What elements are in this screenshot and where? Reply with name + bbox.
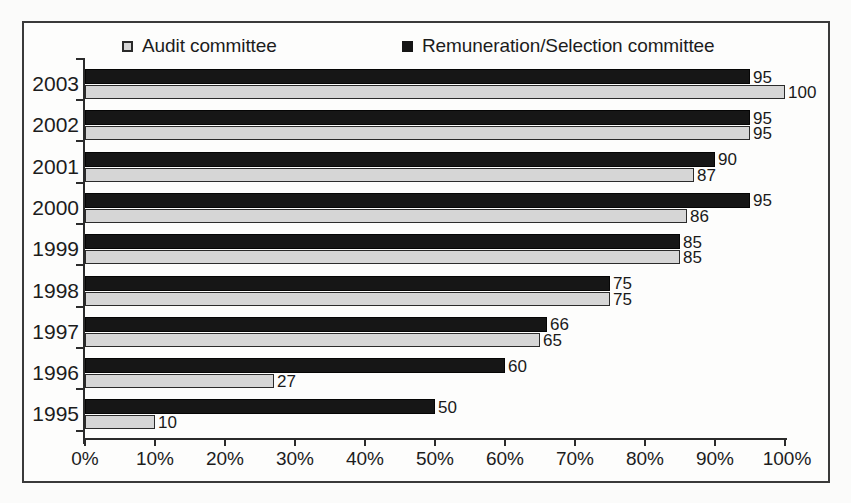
bar-audit-1999[interactable]: 85 [85,250,680,264]
bar-remuneration-2000[interactable]: 95 [85,193,750,208]
legend-label-audit-committee: Audit committee [142,35,277,57]
x-axis-label-70: 70% [556,448,594,470]
y-axis-tick [76,140,84,142]
open-square-icon [122,41,133,52]
x-axis-tick [154,438,156,446]
x-axis-label-80: 80% [626,448,664,470]
bar-audit-1997[interactable]: 65 [85,333,540,347]
bar-value-remuneration-2003: 95 [753,68,772,85]
bar-value-remuneration-2001: 90 [718,151,737,168]
bar-value-audit-1998: 75 [613,290,632,307]
x-axis-label-50: 50% [416,448,454,470]
bar-audit-2001[interactable]: 87 [85,168,694,182]
y-axis-label-1995: 1995 [0,402,79,426]
x-axis-tick [84,438,86,446]
bar-remuneration-2002[interactable]: 95 [85,110,750,125]
bar-value-audit-2000: 86 [690,207,709,224]
y-axis-label-2000: 2000 [0,196,79,220]
x-axis-tick [504,438,506,446]
category-row-1995: 1995 50 10 [85,396,785,437]
bar-remuneration-2001[interactable]: 90 [85,152,715,167]
y-axis-tick [76,223,84,225]
category-row-2000: 2000 95 86 [85,190,785,231]
legend-item-audit-committee[interactable]: Audit committee [122,31,277,61]
category-row-2002: 2002 95 95 [85,107,785,148]
bar-audit-1998[interactable]: 75 [85,292,610,306]
x-axis-label-40: 40% [346,448,384,470]
x-axis-tick [434,438,436,446]
category-row-1998: 1998 75 75 [85,273,785,314]
bar-value-remuneration-2000: 95 [753,192,772,209]
x-axis-label-60: 60% [486,448,524,470]
x-axis-tick [364,438,366,446]
category-row-1999: 1999 85 85 [85,231,785,272]
bar-value-audit-1995: 10 [158,414,177,431]
x-axis-label-100: 100% [763,448,812,470]
y-axis-tick [76,99,84,101]
bar-audit-2002[interactable]: 95 [85,126,750,140]
x-axis-tick [714,438,716,446]
x-axis-tick [574,438,576,446]
bar-value-audit-2002: 95 [753,125,772,142]
bar-remuneration-1999[interactable]: 85 [85,234,680,249]
bar-audit-1996[interactable]: 27 [85,374,274,388]
category-row-2001: 2001 90 87 [85,149,785,190]
y-axis-tick [76,182,84,184]
y-axis-label-1998: 1998 [0,279,79,303]
chart-legend: Audit committee Remuneration/Selection c… [24,31,828,61]
bar-remuneration-1997[interactable]: 66 [85,317,547,332]
x-axis-label-10: 10% [136,448,174,470]
x-axis-label-0: 0% [71,448,98,470]
y-axis-tick [76,430,84,432]
bar-value-audit-2001: 87 [697,166,716,183]
x-axis-label-30: 30% [276,448,314,470]
bar-remuneration-2003[interactable]: 95 [85,69,750,84]
y-axis-tick [76,347,84,349]
bar-value-remuneration-1995: 50 [438,398,457,415]
y-axis-tick [76,58,84,60]
legend-label-remuneration-committee: Remuneration/Selection committee [422,35,715,57]
category-row-1996: 1996 60 27 [85,355,785,396]
bar-audit-1995[interactable]: 10 [85,415,155,429]
x-axis-label-20: 20% [206,448,244,470]
chart-frame: Audit committee Remuneration/Selection c… [22,21,830,483]
bar-value-audit-1996: 27 [277,373,296,390]
y-axis-tick [76,388,84,390]
category-row-2003: 2003 95 100 [85,66,785,107]
y-axis-tick [76,264,84,266]
y-axis-label-2002: 2002 [0,113,79,137]
bar-remuneration-1995[interactable]: 50 [85,399,435,414]
y-axis-label-1999: 1999 [0,237,79,261]
y-axis-label-1997: 1997 [0,320,79,344]
bar-value-remuneration-1996: 60 [508,357,527,374]
bar-audit-2003[interactable]: 100 [85,85,785,99]
bar-remuneration-1998[interactable]: 75 [85,276,610,291]
x-axis-label-90: 90% [696,448,734,470]
y-axis-tick [76,306,84,308]
x-axis-tick [644,438,646,446]
bar-value-audit-1999: 85 [683,249,702,266]
x-axis-tick [224,438,226,446]
category-row-1997: 1997 66 65 [85,314,785,355]
x-axis-tick [294,438,296,446]
page-canvas: Audit committee Remuneration/Selection c… [0,0,851,503]
solid-square-icon [402,41,413,52]
y-axis-label-2003: 2003 [0,72,79,96]
bar-value-audit-2003: 100 [788,84,816,101]
y-axis-label-2001: 2001 [0,155,79,179]
legend-item-remuneration-committee[interactable]: Remuneration/Selection committee [402,31,715,61]
plot-area: 2003 95 100 2002 95 95 2001 [85,66,785,438]
bar-audit-2000[interactable]: 86 [85,209,687,223]
y-axis-label-1996: 1996 [0,361,79,385]
x-axis-tick [784,438,786,446]
bar-value-audit-1997: 65 [543,331,562,348]
